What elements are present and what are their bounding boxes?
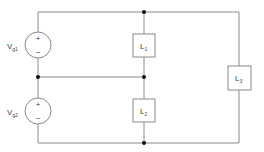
junction-dot-icon [142, 141, 146, 145]
source-label-vg1: Vg1 [7, 42, 18, 52]
load-l3: L3 [228, 66, 251, 90]
circuit-diagram: + − Vg1 + − Vg2 L1 L2 [0, 0, 264, 152]
load-l2: L2 [133, 99, 155, 122]
junction-dot-icon [36, 75, 40, 79]
label-subscript: 1 [144, 46, 147, 52]
label-subscript: g2 [12, 112, 18, 118]
label-subscript: 3 [239, 78, 242, 84]
wires [38, 12, 239, 143]
load-l1: L1 [133, 34, 155, 57]
plus-sign: + [36, 34, 41, 43]
voltage-source-vg1: + − Vg1 [7, 32, 51, 58]
source-label-vg2: Vg2 [7, 108, 18, 118]
junction-dot-icon [142, 10, 146, 14]
minus-sign: − [36, 48, 41, 57]
junction-dot-icon [142, 75, 146, 79]
voltage-source-vg2: + − Vg2 [7, 98, 51, 124]
label-subscript: 2 [144, 111, 147, 117]
label-subscript: g1 [12, 46, 18, 52]
plus-sign: + [36, 100, 41, 109]
minus-sign: − [36, 114, 41, 123]
